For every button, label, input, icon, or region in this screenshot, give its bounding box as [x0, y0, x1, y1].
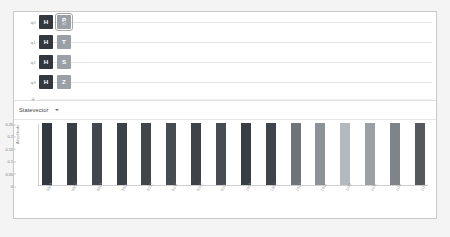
x-axis-tick: 1111: [415, 190, 425, 218]
qubit-label-2: q2: [14, 60, 39, 65]
bar[interactable]: [67, 123, 77, 185]
bar-series: [39, 124, 428, 185]
bar[interactable]: [291, 123, 301, 185]
wire-line: [40, 22, 432, 23]
h-gate[interactable]: H: [39, 15, 53, 29]
h-gate[interactable]: H: [39, 75, 53, 89]
y-axis-tick: 0.25: [5, 122, 13, 127]
qubit-label-3: q3: [14, 80, 39, 85]
h-gate[interactable]: H: [39, 55, 53, 69]
y-axis-tick-mark: [14, 136, 16, 137]
gate-label: T: [62, 39, 66, 45]
y-axis-tick: 0.15: [5, 146, 13, 151]
x-axis-tick: 1011: [315, 190, 325, 218]
gate-label: Z: [62, 79, 66, 85]
qubit-label-0: q0: [14, 20, 39, 25]
s-gate[interactable]: S: [57, 55, 71, 69]
y-axis-ticks: 00.050.10.150.20.25: [14, 120, 38, 186]
bar[interactable]: [340, 123, 350, 185]
y-axis-tick-mark: [14, 149, 16, 150]
qubit-wire-3[interactable]: q3 H Z: [14, 72, 436, 92]
x-axis-tick: 0001: [66, 190, 76, 218]
qubit-wire-2[interactable]: q2 H S: [14, 52, 436, 72]
qubit-label-index: 1: [34, 41, 36, 45]
bar[interactable]: [415, 123, 425, 185]
wire-line: [40, 42, 432, 43]
t-gate[interactable]: T: [57, 35, 71, 49]
gate-label: H: [44, 79, 48, 85]
x-axis-ticks: 0000000100100011010001010110011110001001…: [38, 190, 428, 218]
bar[interactable]: [266, 123, 276, 185]
x-axis-tick: 1100: [340, 190, 350, 218]
y-axis-tick: 0.05: [5, 171, 13, 176]
x-axis-tick: 0100: [141, 190, 151, 218]
x-axis-tick: 0101: [166, 190, 176, 218]
x-axis-tick: 1010: [290, 190, 300, 218]
wire-line: [40, 62, 432, 63]
x-axis-tick-label: 0111: [220, 183, 227, 192]
qubit-wire-1[interactable]: q1 H T: [14, 32, 436, 52]
qubit-label-index: 3: [34, 81, 36, 85]
x-axis-tick: 1101: [365, 190, 375, 218]
gate-sublabel: π/2: [62, 24, 66, 27]
qubit-label-index: 0: [34, 21, 36, 25]
bar[interactable]: [141, 123, 151, 185]
x-axis-tick: 1001: [265, 190, 275, 218]
y-axis-tick-mark: [14, 174, 16, 175]
circuit-editor[interactable]: q0 H P π/2 q1 H T: [14, 12, 436, 100]
x-axis-tick: 0000: [41, 190, 51, 218]
bar[interactable]: [216, 123, 226, 185]
bar[interactable]: [117, 123, 127, 185]
chevron-down-icon[interactable]: [55, 109, 59, 111]
h-gate[interactable]: H: [39, 35, 53, 49]
bar[interactable]: [390, 123, 400, 185]
statevector-label: Statevector: [19, 107, 48, 113]
add-qubit-icon[interactable]: +: [31, 96, 35, 103]
composer-panel: q0 H P π/2 q1 H T: [13, 11, 437, 219]
y-axis-tick-mark: [14, 186, 16, 187]
qubit-label-1: q1: [14, 40, 39, 45]
amplitude-chart: Amplitude 00.050.10.150.20.25 0000000100…: [14, 120, 436, 220]
bar[interactable]: [241, 123, 251, 185]
gate-label: H: [44, 59, 48, 65]
gate-label: S: [62, 59, 66, 65]
y-axis-tick: 0.1: [8, 159, 13, 164]
bar[interactable]: [92, 123, 102, 185]
qubit-wire-0[interactable]: q0 H P π/2: [14, 12, 436, 32]
y-axis-tick-mark: [14, 124, 16, 125]
x-axis-tick: 0010: [91, 190, 101, 218]
x-axis-tick: 0011: [116, 190, 126, 218]
gate-label: H: [44, 39, 48, 45]
qubit-label-index: 2: [34, 61, 36, 65]
bar[interactable]: [315, 123, 325, 185]
z-gate[interactable]: Z: [57, 75, 71, 89]
screenshot-root: q0 H P π/2 q1 H T: [0, 0, 450, 237]
y-axis-tick-mark: [14, 161, 16, 162]
wire-line: [40, 99, 432, 100]
x-axis-tick: 1110: [390, 190, 400, 218]
x-axis-tick: 0110: [191, 190, 201, 218]
x-axis-tick: 1000: [240, 190, 250, 218]
wire-line: [40, 82, 432, 83]
y-axis-tick: 0: [11, 184, 13, 189]
bar[interactable]: [42, 123, 52, 185]
y-axis-tick: 0.2: [8, 134, 13, 139]
plot-area: [38, 124, 428, 186]
x-axis-tick: 0111: [215, 190, 225, 218]
bar[interactable]: [365, 123, 375, 185]
p-gate[interactable]: P π/2: [57, 15, 71, 29]
bar[interactable]: [166, 123, 176, 185]
bar[interactable]: [191, 123, 201, 185]
gate-label: H: [44, 19, 48, 25]
add-qubit-row[interactable]: +: [14, 92, 436, 106]
